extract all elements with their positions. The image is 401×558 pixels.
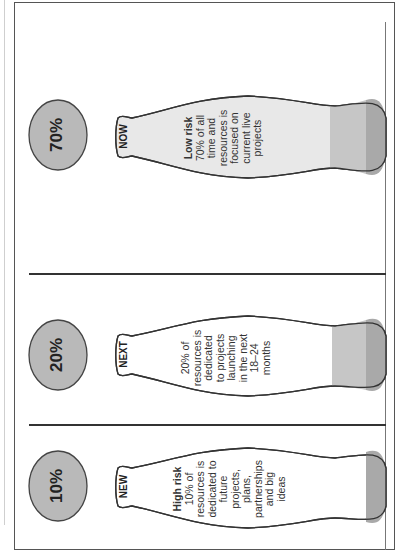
neck-label-now: NOW: [118, 119, 131, 155]
description-now: Low risk 70% of all time and resources i…: [183, 96, 267, 180]
desc-line: launching: [226, 311, 238, 405]
desc-line: focused on: [229, 96, 241, 180]
percent-badge-next: 20%: [47, 330, 69, 380]
percent-badge-new: 10%: [47, 461, 69, 511]
desc-line: ideas: [276, 433, 288, 545]
desc-line: resources is: [195, 433, 207, 545]
neck-label-next: NEXT: [118, 337, 131, 373]
description-new: High risk 10% of resources is dedicated …: [172, 433, 284, 545]
desc-line: months: [261, 311, 273, 405]
risk-label-new: High risk: [172, 433, 184, 545]
panel-next: 20% NEXT 20% of resources is dedicated t…: [0, 273, 401, 424]
risk-label-now: Low risk: [183, 96, 195, 180]
desc-line: future: [218, 433, 230, 545]
desc-line: plans,: [241, 433, 253, 545]
desc-line: 20% of: [180, 311, 192, 405]
desc-line: dedicated: [203, 311, 215, 405]
percent-badge-now: 70%: [47, 110, 69, 160]
description-next: 20% of resources is dedicated to project…: [180, 311, 274, 405]
panel-new: 10% NEW High risk 10% of resources is de…: [0, 424, 401, 550]
desc-line: time and: [206, 96, 218, 180]
neck-label-new: NEW: [118, 469, 131, 505]
desc-line: projects: [252, 96, 264, 180]
panel-now: 70% NOW Low risk 70% of all time and res…: [0, 0, 401, 273]
desc-line: 18–24: [249, 311, 261, 405]
desc-line: and big: [264, 433, 276, 545]
bottle-diagram: 70% NOW Low risk 70% of all time and res…: [0, 0, 401, 558]
